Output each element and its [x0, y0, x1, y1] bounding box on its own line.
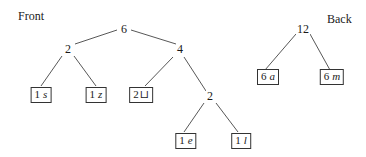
back-root-node: 12	[296, 23, 310, 35]
leaf-symbol: s	[43, 88, 47, 100]
front-right-node: 4	[176, 43, 184, 55]
leaf-symbol: ⊔	[140, 88, 149, 100]
leaf-weight: 6	[261, 70, 267, 82]
back-label: Back	[327, 13, 352, 25]
front-root-node: 6	[120, 23, 128, 35]
leaf-weight: 6	[324, 70, 330, 82]
leaf-symbol: l	[244, 134, 247, 146]
leaf-e: 1e	[175, 133, 196, 149]
leaf-weight: 1	[90, 88, 96, 100]
leaf-symbol: m	[332, 70, 340, 82]
leaf-weight: 1	[179, 134, 185, 146]
leaf-a: 6a	[257, 69, 279, 85]
leaf-symbol: z	[98, 88, 102, 100]
leaf-space: 2⊔	[129, 87, 153, 103]
leaf-symbol: e	[188, 134, 193, 146]
leaf-symbol: a	[270, 70, 276, 82]
leaf-weight: 1	[35, 88, 41, 100]
front-label: Front	[18, 10, 44, 22]
leaf-s: 1s	[31, 87, 52, 103]
leaf-l: 1l	[231, 133, 251, 149]
leaf-weight: 1	[235, 134, 241, 146]
leaf-weight: 2	[133, 88, 139, 100]
leaf-z: 1z	[86, 87, 107, 103]
front-right-right-node: 2	[206, 90, 214, 102]
leaf-m: 6m	[320, 69, 344, 85]
front-left-node: 2	[64, 43, 72, 55]
